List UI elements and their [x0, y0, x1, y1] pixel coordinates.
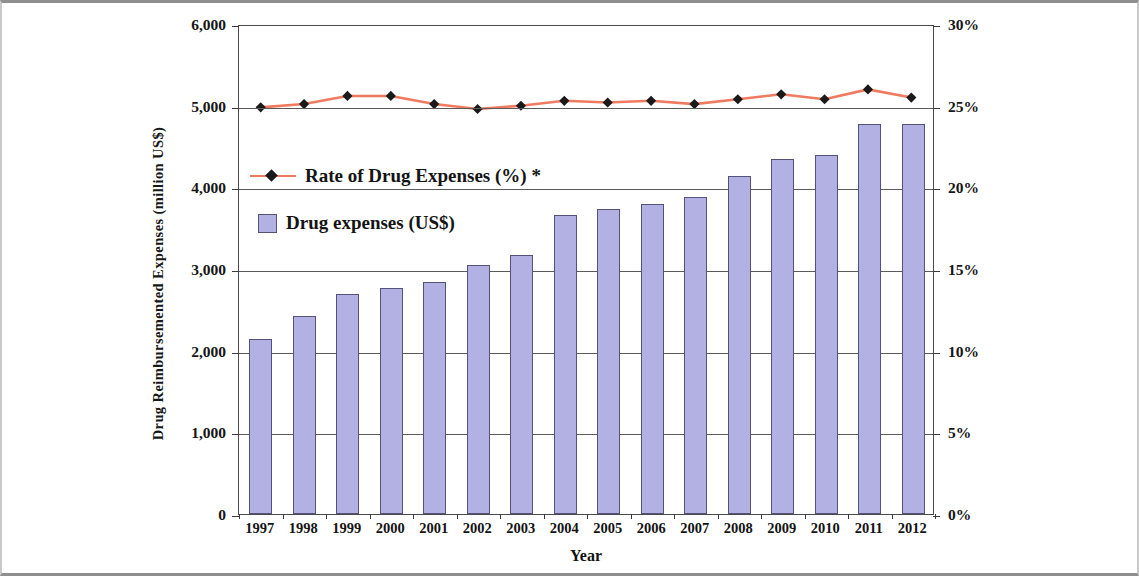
bar: [597, 209, 620, 514]
plot-area: [238, 25, 934, 515]
rate-marker: [472, 104, 482, 114]
x-axis-tick: [239, 514, 240, 519]
bar: [902, 124, 925, 514]
x-axis-tick-label: 2006: [637, 520, 666, 537]
y2-axis-tick: [933, 353, 940, 354]
bar: [510, 255, 533, 514]
bar: [380, 288, 403, 514]
x-axis-tick-label: 2011: [855, 520, 883, 537]
bar: [336, 294, 359, 514]
y-axis-tick: [232, 271, 239, 272]
rate-marker: [342, 91, 352, 101]
x-axis-tick-label: 2005: [593, 520, 622, 537]
bar: [815, 155, 838, 514]
legend-item-expenses: Drug expenses (US$): [258, 212, 455, 234]
legend-label-rate: Rate of Drug Expenses (%) *: [305, 165, 541, 187]
y2-axis-tick-label: 20%: [948, 179, 1018, 197]
figure-panel: Drug Reimbursemented Expenses (million U…: [0, 0, 1139, 576]
x-axis-tick: [457, 514, 458, 519]
rate-marker: [906, 93, 916, 103]
x-axis-tick-label: 2004: [550, 520, 579, 537]
x-axis-tick-label: 2003: [506, 520, 535, 537]
x-axis-tick-label: 2007: [680, 520, 709, 537]
rate-marker: [733, 94, 743, 104]
y2-axis-tick-label: 25%: [948, 98, 1018, 116]
x-axis-tick: [805, 514, 806, 519]
x-axis-tick: [370, 514, 371, 519]
bar: [293, 316, 316, 514]
bar: [467, 265, 490, 514]
x-axis-tick: [674, 514, 675, 519]
rate-marker: [603, 97, 613, 107]
rate-marker: [516, 101, 526, 111]
bar: [684, 197, 707, 514]
y2-axis-tick: [933, 189, 940, 190]
x-axis-tick: [935, 514, 936, 519]
x-axis-tick-label: 2008: [724, 520, 753, 537]
x-axis-tick: [631, 514, 632, 519]
y2-axis-tick: [933, 434, 940, 435]
x-axis-tick-label: 2000: [376, 520, 405, 537]
y-axis-tick: [232, 353, 239, 354]
y2-axis-tick: [933, 108, 940, 109]
rate-marker: [776, 89, 786, 99]
line-marker-icon: [250, 169, 296, 183]
x-axis-tick-label: 1997: [245, 520, 274, 537]
x-axis-title: Year: [238, 547, 934, 565]
bar: [554, 215, 577, 514]
x-axis-tick: [892, 514, 893, 519]
bar-swatch-icon: [258, 214, 277, 233]
y2-axis-tick-label: 5%: [948, 424, 1018, 442]
bar: [858, 124, 881, 514]
legend-item-rate: Rate of Drug Expenses (%) *: [250, 165, 541, 187]
y2-axis-tick-label: 10%: [948, 343, 1018, 361]
x-axis-tick: [848, 514, 849, 519]
rate-line: [261, 89, 912, 109]
x-axis-tick: [500, 514, 501, 519]
rate-marker: [559, 96, 569, 106]
legend-label-expenses: Drug expenses (US$): [286, 212, 455, 234]
y-axis-tick: [232, 516, 239, 517]
x-axis-tick-label: 2010: [811, 520, 840, 537]
x-axis-tick: [718, 514, 719, 519]
y-axis-tick-label: 1,000: [152, 424, 226, 442]
x-axis-tick: [413, 514, 414, 519]
y-axis-tick: [232, 434, 239, 435]
x-axis-tick: [544, 514, 545, 519]
rate-marker: [646, 96, 656, 106]
y2-axis-tick-label: 15%: [948, 261, 1018, 279]
bar: [641, 204, 664, 514]
x-axis-tick-label: 2012: [898, 520, 927, 537]
x-axis-tick: [761, 514, 762, 519]
y2-axis-tick: [933, 271, 940, 272]
y2-axis-tick-label: 0%: [948, 506, 1018, 524]
y-axis-tick: [232, 108, 239, 109]
bar: [771, 159, 794, 514]
y-axis-tick-label: 5,000: [152, 98, 226, 116]
x-axis-tick-label: 2002: [463, 520, 492, 537]
rate-marker: [863, 84, 873, 94]
y2-axis-tick: [933, 26, 940, 27]
y-axis-tick: [232, 26, 239, 27]
x-axis-tick-label: 1998: [289, 520, 318, 537]
y-axis-tick-label: 4,000: [152, 179, 226, 197]
bar: [249, 339, 272, 514]
bar: [423, 282, 446, 514]
y-axis-tick: [232, 189, 239, 190]
rate-marker: [386, 91, 396, 101]
x-axis-tick: [587, 514, 588, 519]
y-axis-tick-label: 2,000: [152, 343, 226, 361]
x-axis-tick: [326, 514, 327, 519]
y-axis-tick-label: 0: [152, 506, 226, 524]
x-axis-tick-label: 1999: [332, 520, 361, 537]
y2-axis-tick-label: 30%: [948, 16, 1018, 34]
gridline: [239, 108, 933, 109]
y-axis-title-text: Drug Reimbursemented Expenses (million U…: [151, 126, 168, 440]
x-axis-tick-label: 2009: [767, 520, 796, 537]
rate-marker: [819, 94, 829, 104]
y-axis-tick-label: 3,000: [152, 261, 226, 279]
bar: [728, 176, 751, 514]
y-axis-tick-label: 6,000: [152, 16, 226, 34]
x-axis-tick: [283, 514, 284, 519]
x-axis-tick-label: 2001: [419, 520, 448, 537]
